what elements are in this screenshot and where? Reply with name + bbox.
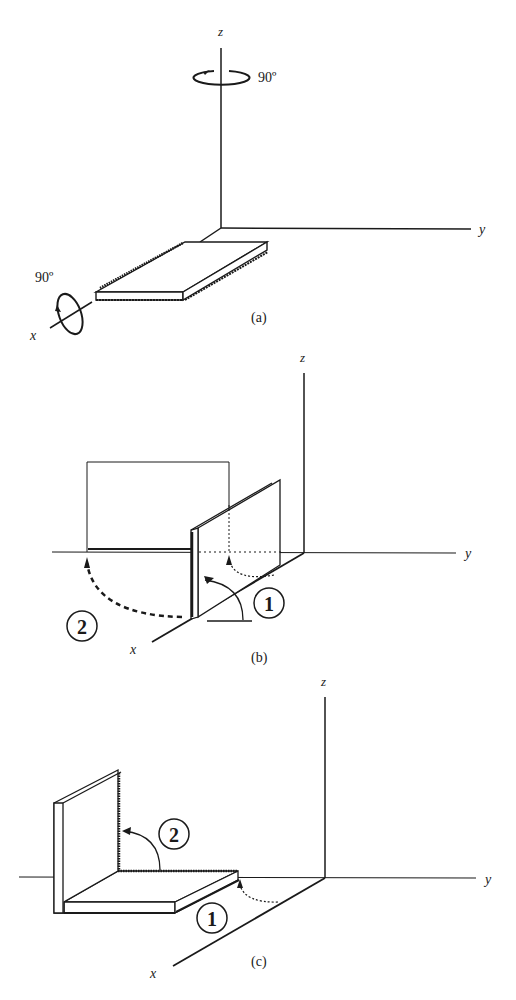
rotation-figure: 90º 90º z y x (a) — [0, 0, 516, 1000]
rotation-path-2-icon — [87, 563, 182, 617]
x-axis-back — [200, 228, 221, 242]
y-axis-label: y — [483, 872, 492, 887]
plate-a — [96, 242, 268, 300]
svg-text:1: 1 — [264, 593, 274, 615]
step-2-marker: 2 — [159, 819, 189, 849]
panel-b-caption: (b) — [251, 650, 268, 666]
z-axis-label: z — [217, 24, 223, 39]
x-axis-label: x — [129, 642, 137, 657]
panel-a: 90º 90º z y x (a) — [29, 24, 486, 343]
y-axis-label: y — [463, 546, 472, 561]
step-2-marker: 2 — [67, 611, 97, 641]
z-rotation-angle: 90º — [258, 70, 277, 85]
rotation-arrow-x-icon — [52, 291, 87, 338]
panel-c: 2 1 z y x (c) — [19, 674, 492, 981]
y-axis-label: y — [477, 222, 486, 237]
x-axis-front — [50, 302, 92, 328]
panel-b: 1 2 z y x (b) — [52, 350, 472, 666]
rotation-path-2-icon — [124, 831, 160, 870]
step-1-marker: 1 — [254, 588, 284, 618]
z-axis-label: z — [299, 350, 305, 365]
panel-c-caption: (c) — [251, 954, 267, 970]
svg-text:1: 1 — [207, 908, 217, 930]
z-axis-label: z — [320, 674, 326, 689]
step-1-marker: 1 — [197, 903, 227, 933]
y-axis — [221, 228, 471, 229]
svg-text:2: 2 — [169, 824, 179, 846]
x-rotation-angle: 90º — [35, 270, 54, 285]
x-axis-label: x — [149, 966, 157, 981]
rotation-path-1-icon — [240, 885, 278, 902]
svg-text:2: 2 — [77, 616, 87, 638]
panel-a-caption: (a) — [251, 310, 267, 326]
x-axis-label: x — [29, 328, 37, 343]
